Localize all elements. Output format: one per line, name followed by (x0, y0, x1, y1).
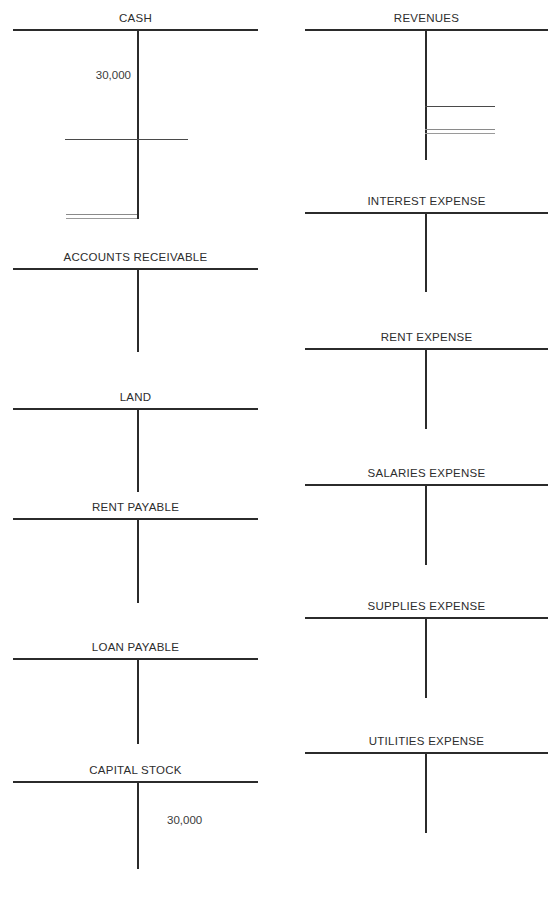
total-rule-cash-1 (66, 214, 137, 219)
t-account-stem-loan-payable (137, 658, 139, 744)
t-account-title-rent-expense: RENT EXPENSE (305, 331, 548, 344)
t-account-title-interest-expense: INTEREST EXPENSE (305, 195, 548, 208)
t-account-top-rule-cash (13, 29, 258, 31)
t-account-stem-utilities-expense (425, 752, 427, 833)
t-account-title-loan-payable: LOAN PAYABLE (13, 641, 258, 654)
t-account-top-rule-loan-payable (13, 658, 258, 660)
t-account-title-supplies-expense: SUPPLIES EXPENSE (305, 600, 548, 613)
subtotal-rule-cash-0 (65, 139, 188, 140)
t-account-title-capital-stock: CAPITAL STOCK (13, 764, 258, 777)
t-account-stem-supplies-expense (425, 617, 427, 698)
entry-amount-cash-debit[interactable]: 30,000 (13, 69, 131, 82)
t-account-title-land: LAND (13, 391, 258, 404)
worksheet-page: CASH30,000ACCOUNTS RECEIVABLELANDRENT PA… (0, 0, 555, 910)
t-account-stem-capital-stock (137, 781, 139, 869)
t-account-stem-rent-expense (425, 348, 427, 429)
t-account-top-rule-accounts-receivable (13, 268, 258, 270)
t-account-stem-revenues (425, 29, 427, 160)
t-account-stem-rent-payable (137, 518, 139, 603)
t-account-title-utilities-expense: UTILITIES EXPENSE (305, 735, 548, 748)
t-account-title-accounts-receivable: ACCOUNTS RECEIVABLE (13, 251, 258, 264)
t-account-title-salaries-expense: SALARIES EXPENSE (305, 467, 548, 480)
t-account-stem-cash (137, 29, 139, 219)
entry-amount-capital-stock-credit[interactable]: 30,000 (167, 814, 258, 827)
t-account-stem-salaries-expense (425, 484, 427, 565)
t-account-top-rule-land (13, 408, 258, 410)
t-account-stem-land (137, 408, 139, 492)
t-account-top-rule-rent-payable (13, 518, 258, 520)
t-account-title-revenues: REVENUES (305, 12, 548, 25)
t-account-title-rent-payable: RENT PAYABLE (13, 501, 258, 514)
t-account-title-cash: CASH (13, 12, 258, 25)
t-account-stem-accounts-receivable (137, 268, 139, 352)
t-account-stem-interest-expense (425, 212, 427, 292)
t-account-top-rule-capital-stock (13, 781, 258, 783)
subtotal-rule-revenues-0 (425, 106, 495, 107)
total-rule-revenues-1 (425, 129, 495, 134)
